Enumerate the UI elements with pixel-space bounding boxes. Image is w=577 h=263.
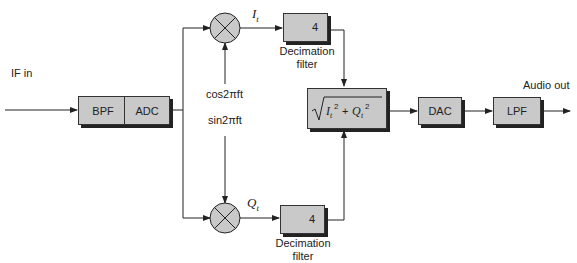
mixer-bottom — [210, 203, 240, 233]
lpf-block: LPF — [493, 97, 541, 125]
bpf-block: BPF — [78, 96, 128, 125]
decimation-caption-top: Decimation filter — [275, 45, 339, 71]
cos-label: cos2πft — [206, 88, 243, 100]
output-label: Audio out — [523, 79, 569, 91]
lpf-label: LPF — [507, 105, 527, 117]
decimation-factor-bottom: 4 — [309, 213, 315, 225]
sin-label: sin2πft — [208, 114, 242, 126]
adc-block: ADC — [124, 96, 170, 125]
decimation-filter-top: 4 — [283, 13, 328, 42]
decimation-caption-line1: Decimation — [275, 45, 339, 58]
dac-label: DAC — [428, 105, 451, 117]
bpf-label: BPF — [92, 105, 113, 117]
svg-text:t: t — [330, 111, 333, 120]
svg-text:t: t — [361, 111, 364, 120]
decimation-caption-bottom: Decimation filter — [271, 237, 335, 263]
adc-label: ADC — [135, 105, 158, 117]
sqrt-icon: I t 2 + Q t 2 — [310, 94, 384, 124]
input-label: IF in — [11, 67, 32, 79]
decimation-filter-bottom: 4 — [280, 205, 325, 234]
dac-block: DAC — [418, 97, 462, 125]
svg-text:2: 2 — [334, 102, 339, 111]
decimation-caption-line1: Decimation — [271, 237, 335, 250]
i-subscript: t — [256, 14, 259, 24]
decimation-factor-top: 4 — [312, 21, 318, 33]
decimation-caption-line2: filter — [271, 250, 335, 263]
decimation-caption-line2: filter — [275, 58, 339, 71]
i-signal-label: It — [252, 6, 259, 24]
svg-text:Q: Q — [352, 104, 361, 118]
svg-text:2: 2 — [365, 102, 370, 111]
mixer-top — [210, 13, 240, 43]
svg-text:+: + — [342, 105, 348, 117]
q-subscript: t — [256, 203, 259, 213]
q-letter: Q — [247, 195, 256, 210]
magnitude-block: I t 2 + Q t 2 — [307, 88, 387, 129]
q-signal-label: Qt — [247, 195, 259, 213]
